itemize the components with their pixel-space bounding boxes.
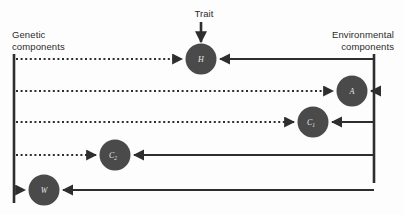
node-group: H A C1 C2 W: [29, 44, 368, 206]
node-C1[interactable]: C1: [298, 107, 329, 138]
node-W[interactable]: W: [29, 175, 60, 206]
genetic-components-label: Genetic components: [12, 29, 65, 52]
genetic-arrows: [16, 59, 333, 190]
diagram-canvas: H A C1 C2 W Trait Genetic components Env…: [0, 0, 404, 215]
node-H[interactable]: H: [186, 44, 217, 75]
node-C2[interactable]: C2: [100, 140, 131, 171]
environmental-components-label: Environmental components: [332, 29, 394, 52]
node-A-label: A: [349, 87, 355, 96]
trait-label: Trait: [0, 8, 404, 20]
node-A[interactable]: A: [337, 76, 368, 107]
